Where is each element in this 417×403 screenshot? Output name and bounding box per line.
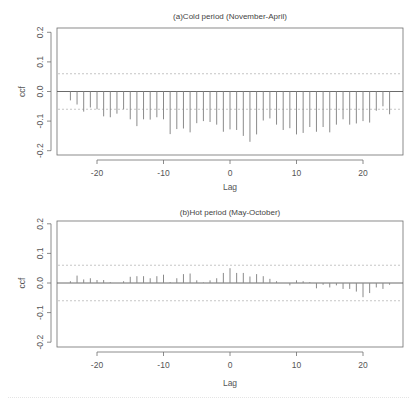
x-tick-label: 0 xyxy=(228,360,233,370)
x-tick-label: 0 xyxy=(228,168,233,178)
panel-cold-period: (a)Cold period (November-April) 0.20.10.… xyxy=(17,12,403,192)
y-axis: 0.20.10.0-0.1-0.2 xyxy=(35,26,51,158)
y-tick-label: 0.1 xyxy=(35,247,45,259)
x-axis: -20-1001020 xyxy=(91,160,368,178)
panel-title: (b)Hot period (May-October) xyxy=(180,208,281,217)
x-tick-label: -10 xyxy=(157,168,170,178)
x-axis-label: Lag xyxy=(223,182,237,192)
y-axis-label: ccf xyxy=(17,85,27,97)
panel-hot-period: (b)Hot period (May-October) 0.20.10.0-0.… xyxy=(17,208,403,388)
x-tick-label: 10 xyxy=(292,360,302,370)
y-tick-label: -0.2 xyxy=(35,143,45,158)
x-axis-label: Lag xyxy=(223,378,237,388)
x-tick-label: -20 xyxy=(91,360,104,370)
x-tick-label: -10 xyxy=(157,360,170,370)
y-tick-label: 0.2 xyxy=(35,26,45,38)
y-tick-label: 0.1 xyxy=(35,56,45,68)
y-tick-label: 0.0 xyxy=(35,85,45,97)
y-tick-label: -0.1 xyxy=(35,114,45,129)
ccf-figure: (a)Cold period (November-April) 0.20.10.… xyxy=(0,0,417,403)
plot-frame xyxy=(57,221,403,347)
y-tick-label: -0.1 xyxy=(35,305,45,320)
y-axis: 0.20.10.0-0.1-0.2 xyxy=(35,218,51,350)
x-tick-label: 20 xyxy=(358,168,368,178)
panel-title: (a)Cold period (November-April) xyxy=(173,12,287,21)
y-tick-label: 0.2 xyxy=(35,218,45,230)
y-tick-label: 0.0 xyxy=(35,277,45,289)
x-tick-label: -20 xyxy=(91,168,104,178)
y-axis-label: ccf xyxy=(17,277,27,289)
ccf-stems xyxy=(70,92,389,142)
x-tick-label: 10 xyxy=(292,168,302,178)
cropped-caption-strip xyxy=(8,397,409,400)
x-axis: -20-1001020 xyxy=(91,352,368,370)
y-tick-label: -0.2 xyxy=(35,335,45,350)
x-tick-label: 20 xyxy=(358,360,368,370)
